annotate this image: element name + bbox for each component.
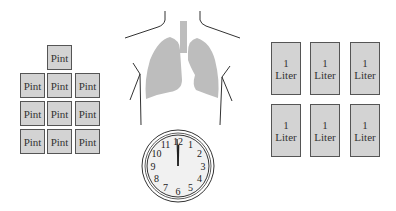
clock-number: 9 xyxy=(151,161,156,172)
clock-number: 2 xyxy=(197,148,202,159)
clock-number: 7 xyxy=(163,182,168,193)
clock-number: 3 xyxy=(201,161,206,172)
clock-number: 5 xyxy=(188,182,193,193)
clock-number: 4 xyxy=(197,173,202,184)
clock-number: 11 xyxy=(161,139,171,150)
clock-number: 8 xyxy=(154,173,159,184)
lungs-icon xyxy=(146,21,219,99)
clock-number: 12 xyxy=(173,136,183,147)
clock-number: 1 xyxy=(188,139,193,150)
clock-number: 6 xyxy=(176,186,181,197)
torso-lungs-illustration: 12 1 2 3 4 5 6 7 8 9 10 11 xyxy=(0,0,396,211)
clock-icon: 12 1 2 3 4 5 6 7 8 9 10 11 xyxy=(142,130,214,202)
